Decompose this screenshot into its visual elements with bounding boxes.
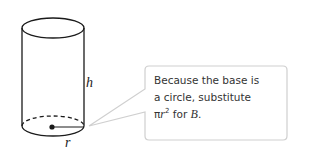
cylinder-top-ellipse — [22, 18, 84, 38]
base-center-point — [49, 124, 54, 129]
height-label: h — [86, 75, 93, 90]
for-text: for — [169, 108, 190, 120]
period: . — [198, 108, 201, 120]
callout-line-2: a circle, substitute — [154, 89, 284, 106]
callout-text: Because the base is a circle, substitute… — [154, 72, 284, 123]
callout-line-1: Because the base is — [154, 72, 284, 89]
cylinder-base-back-arc — [22, 116, 84, 126]
cylinder — [22, 18, 84, 136]
b-variable: B — [191, 107, 198, 121]
callout-line-3: πr2 for B. — [154, 106, 284, 123]
radius-label: r — [65, 135, 71, 150]
